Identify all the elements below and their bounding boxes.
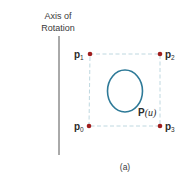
axis-label-line2: Rotation [41, 23, 75, 33]
label-p0: p0 [74, 121, 84, 133]
figure-caption: (a) [120, 162, 131, 172]
control-point-p1 [88, 52, 93, 57]
curve-label: P(u) [138, 107, 157, 119]
axis-label-line1: Axis of [44, 11, 72, 21]
curve-pu [108, 70, 143, 112]
label-p3: p3 [165, 121, 175, 133]
control-point-p2 [158, 52, 163, 57]
label-p1: p1 [74, 49, 84, 61]
control-point-p3 [158, 124, 163, 129]
control-point-p0 [87, 124, 92, 129]
label-p2: p2 [165, 49, 175, 61]
figure: Axis of Rotation p1 p2 p0 p3 P(u) (a) [0, 0, 187, 178]
